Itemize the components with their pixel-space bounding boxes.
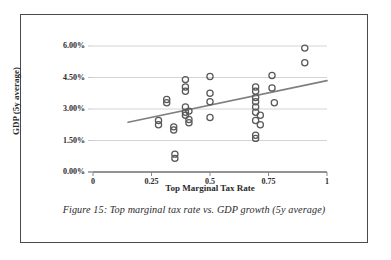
trendline-segment: [128, 81, 327, 123]
gridlines-group: [93, 46, 327, 141]
x-axis-title: Top Marginal Tax Rate: [93, 183, 327, 193]
data-point: [207, 99, 213, 105]
data-point: [172, 155, 178, 161]
y-tick-label: 6.00%: [45, 41, 85, 50]
y-tick-label: 1.50%: [45, 136, 85, 145]
y-axis-title: GDP (5y average): [11, 46, 21, 156]
y-tick-label: 0.00%: [45, 167, 85, 176]
data-point: [207, 90, 213, 96]
data-point: [257, 122, 263, 128]
data-point: [257, 112, 263, 118]
figure-caption: Figure 15: Top marginal tax rate vs. GDP…: [28, 204, 360, 215]
scatter-chart: [0, 0, 391, 260]
y-tick-label: 4.50%: [45, 73, 85, 82]
data-point: [269, 85, 275, 91]
data-point: [207, 114, 213, 120]
data-point: [253, 88, 259, 94]
data-point: [182, 88, 188, 94]
data-point: [271, 100, 277, 106]
data-point: [302, 60, 308, 66]
trendline: [128, 81, 327, 123]
data-point: [207, 73, 213, 79]
data-point: [155, 122, 161, 128]
y-tick-label: 3.00%: [45, 104, 85, 113]
tick-marks-group: [88, 46, 327, 176]
data-points-group: [155, 45, 307, 161]
